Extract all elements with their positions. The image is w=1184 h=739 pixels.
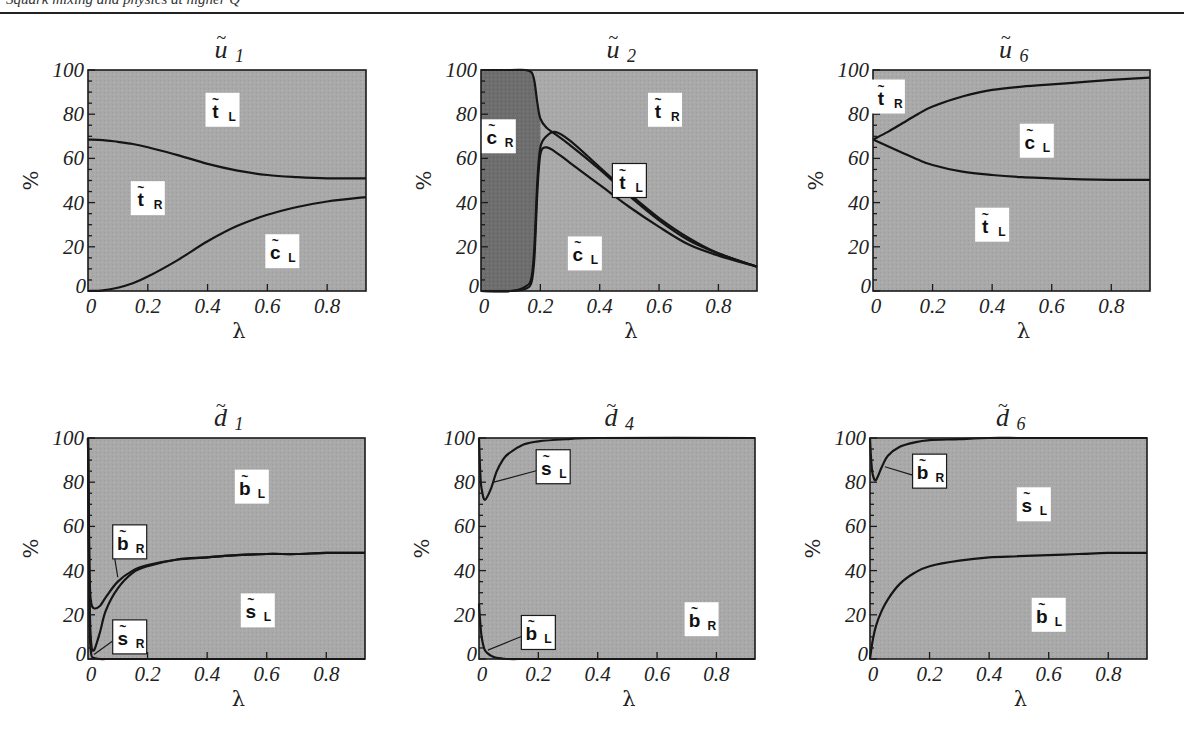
region-label-tilde: ~ — [528, 615, 535, 629]
x-tick-label: 0.8 — [1098, 294, 1125, 318]
y-axis-label: % — [412, 171, 436, 191]
y-tick-label: 100 — [444, 426, 476, 450]
title-tilde: ~ — [998, 396, 1008, 416]
region-label-tilde: ~ — [212, 93, 219, 107]
y-tick-label: 60 — [63, 514, 85, 538]
y-tick-label: 80 — [63, 470, 85, 494]
region-label-subscript: L — [288, 251, 295, 265]
x-tick-label: 0.6 — [644, 662, 671, 686]
title-tilde: ~ — [606, 396, 616, 416]
chart-panel-3: 02040608010000.20.40.60.8λ%u~6t~Rc~Lt~L — [804, 28, 1150, 343]
figure-grid: 02040608010000.20.40.60.8λ%u~1t~Lt~Rc~L0… — [0, 0, 1184, 739]
x-tick-label: 0.6 — [1039, 294, 1066, 318]
x-axis-label: λ — [1017, 319, 1030, 343]
x-tick-label: 0 — [86, 662, 97, 686]
x-axis-label: λ — [1014, 687, 1027, 711]
x-tick-label: 0.6 — [254, 294, 281, 318]
region-label-subscript: L — [559, 467, 566, 481]
title-subscript: 4 — [625, 414, 634, 434]
region-label-tilde: ~ — [119, 525, 126, 539]
x-tick-label: 0 — [477, 662, 488, 686]
y-tick-label: 80 — [456, 102, 478, 126]
x-tick-label: 0.8 — [314, 294, 341, 318]
region-label-subscript: L — [229, 110, 236, 124]
y-tick-label: 40 — [63, 559, 85, 583]
y-tick-label: 60 — [454, 514, 476, 538]
y-tick-label: 100 — [53, 426, 85, 450]
y-tick-label: 100 — [838, 58, 870, 82]
dark-region-cR — [481, 70, 540, 291]
y-tick-label: 80 — [63, 102, 85, 126]
x-tick-label: 0.2 — [525, 662, 552, 686]
region-label-subscript: L — [264, 610, 271, 624]
region-label-tilde: ~ — [241, 470, 248, 484]
y-axis-label: % — [804, 171, 828, 191]
y-tick-label: 60 — [63, 146, 85, 170]
y-tick-label: 40 — [63, 191, 85, 215]
region-label-subscript: L — [998, 225, 1005, 239]
region-label-tilde: ~ — [488, 119, 495, 133]
title-subscript: 1 — [235, 46, 244, 66]
y-axis-label: % — [801, 539, 825, 559]
y-tick-label: 60 — [848, 146, 870, 170]
region-label-tilde: ~ — [691, 602, 698, 616]
x-axis-label: λ — [622, 687, 635, 711]
region-label-tilde: ~ — [619, 164, 626, 178]
y-tick-label: 80 — [845, 470, 867, 494]
region-label-tilde: ~ — [1026, 124, 1033, 138]
y-tick-label: 100 — [835, 426, 867, 450]
y-tick-label: 40 — [454, 559, 476, 583]
title-subscript: 6 — [1017, 414, 1026, 434]
region-label-tilde: ~ — [982, 208, 989, 222]
region-label-subscript: L — [1055, 615, 1062, 629]
x-tick-label: 0.2 — [919, 294, 946, 318]
x-tick-label: 0 — [479, 294, 490, 318]
y-tick-label: 20 — [456, 235, 478, 259]
region-label-subscript: R — [505, 136, 514, 150]
chart-panel-6: 02040608010000.20.40.60.8λ%d~6b~Rs~Lb~L — [801, 396, 1147, 711]
title-subscript: 1 — [235, 414, 244, 434]
region-label-subscript: L — [258, 487, 265, 501]
x-tick-label: 0.6 — [1036, 662, 1063, 686]
x-tick-label: 0.4 — [587, 294, 614, 318]
x-tick-label: 0.6 — [254, 662, 281, 686]
y-tick-label: 80 — [848, 102, 870, 126]
region-label-tilde: ~ — [272, 234, 279, 248]
y-tick-label: 40 — [456, 191, 478, 215]
y-tick-label: 20 — [454, 603, 476, 627]
region-label-subscript: L — [544, 632, 551, 646]
region-label-tilde: ~ — [1038, 598, 1045, 612]
region-label-tilde: ~ — [1023, 487, 1030, 501]
x-tick-label: 0.6 — [646, 294, 673, 318]
region-label-tilde: ~ — [119, 620, 126, 634]
region-label-subscript: L — [1040, 504, 1047, 518]
x-axis-label: λ — [232, 319, 245, 343]
y-tick-label: 20 — [845, 603, 867, 627]
region-label-subscript: L — [635, 181, 642, 195]
y-tick-label: 100 — [446, 58, 478, 82]
region-label-tilde: ~ — [543, 450, 550, 464]
x-tick-label: 0.2 — [916, 662, 943, 686]
x-tick-label: 0.2 — [527, 294, 554, 318]
region-label-tilde: ~ — [654, 93, 661, 107]
region-label-tilde: ~ — [919, 454, 926, 468]
y-tick-label: 40 — [845, 559, 867, 583]
x-axis-label: λ — [624, 319, 637, 343]
y-tick-label: 100 — [53, 58, 85, 82]
x-tick-label: 0.4 — [976, 662, 1003, 686]
y-tick-label: 80 — [454, 470, 476, 494]
x-tick-label: 0.2 — [134, 662, 161, 686]
region-label-subscript: R — [154, 198, 163, 212]
chart-panel-5: 02040608010000.20.40.60.8λ%d~4s~Lb~Lb~R — [410, 396, 755, 711]
x-tick-label: 0.8 — [703, 662, 730, 686]
region-label-subscript: R — [894, 97, 903, 111]
x-axis-label: λ — [232, 687, 245, 711]
region-label-subscript: R — [136, 542, 145, 556]
title-subscript: 6 — [1020, 46, 1029, 66]
x-tick-label: 0.2 — [135, 294, 162, 318]
x-tick-label: 0.8 — [705, 294, 732, 318]
title-tilde: ~ — [216, 28, 226, 48]
x-tick-label: 0.4 — [194, 294, 221, 318]
y-tick-label: 20 — [63, 235, 85, 259]
y-tick-label: 60 — [456, 146, 478, 170]
